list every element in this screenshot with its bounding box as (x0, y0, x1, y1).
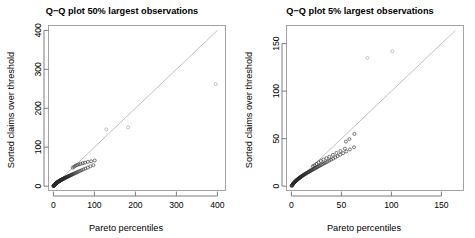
data-point (344, 140, 347, 143)
data-point (334, 151, 337, 154)
data-point (105, 128, 108, 131)
panel-right-ytick-0: 0 (271, 184, 281, 189)
panel-left-ytick-1: 100 (33, 140, 43, 155)
data-point (390, 50, 393, 53)
panel-left-ytick-4: 400 (33, 23, 43, 38)
panel-right-xtick-3: 150 (434, 200, 449, 210)
panel-right-xlabel: Pareto percentiles (326, 223, 400, 233)
panel-left-ytick-0: 0 (33, 184, 43, 189)
data-point (338, 150, 341, 153)
data-point (214, 83, 217, 86)
panel-right-ytick-1: 50 (271, 134, 281, 144)
data-point (324, 157, 327, 160)
panel-right-reference-line (291, 30, 455, 186)
panel-left-xtick-4: 400 (210, 200, 225, 210)
data-point (86, 160, 89, 163)
data-point (352, 146, 355, 149)
data-point (343, 147, 346, 150)
panel-left-title: Q−Q plot 50% largest observations (46, 6, 198, 16)
panel-left-ylabel: Sorted claims over threshold (6, 52, 16, 168)
data-point (79, 162, 82, 165)
data-point (341, 152, 344, 155)
panel-left-xlabel: Pareto percentiles (89, 223, 163, 233)
data-point (92, 164, 95, 167)
panel-right-plot-area: 0 50 100 150 0 50 100 150 (271, 26, 464, 211)
data-point (89, 165, 92, 168)
panel-right-xtick-0: 0 (289, 200, 294, 210)
panel-left-xtick-0: 0 (51, 200, 56, 210)
panel-right-xtick-1: 50 (336, 200, 346, 210)
data-point (348, 148, 351, 151)
panel-left: Q−Q plot 50% largest observations Pareto… (0, 0, 238, 238)
panel-left-xtick-2: 200 (128, 200, 143, 210)
panel-right-ytick-2: 100 (271, 84, 281, 99)
panel-left-plot-area: 0 100 200 300 400 0 100 (33, 23, 226, 210)
qq-plot-figure: Q−Q plot 50% largest observations Pareto… (0, 0, 475, 238)
panel-right-ylabel: Sorted claims over threshold (244, 52, 254, 168)
panel-right-y-axis: 0 50 100 150 (271, 36, 287, 188)
data-point (327, 155, 330, 158)
panel-left-canvas: Q−Q plot 50% largest observations Pareto… (0, 0, 238, 238)
data-point (321, 158, 324, 161)
panel-left-ytick-3: 300 (33, 62, 43, 77)
data-point (347, 138, 350, 141)
data-point (90, 160, 93, 163)
panel-left-y-axis: 0 100 200 300 400 (33, 23, 49, 189)
panel-right-canvas: Q−Q plot 5% largest observations Pareto … (238, 0, 475, 238)
panel-right: Q−Q plot 5% largest observations Pareto … (238, 0, 475, 238)
panel-left-xtick-3: 300 (169, 200, 184, 210)
data-point (93, 159, 96, 162)
panel-right-xtick-2: 100 (384, 200, 399, 210)
panel-right-ytick-3: 150 (271, 36, 281, 51)
panel-right-title: Q−Q plot 5% largest observations (286, 6, 433, 16)
data-point (338, 153, 341, 156)
data-point (331, 153, 334, 156)
panel-right-data-points (290, 50, 394, 188)
panel-right-x-axis: 0 50 100 150 (289, 192, 449, 211)
data-point (365, 56, 368, 59)
panel-left-xtick-1: 100 (87, 200, 102, 210)
data-point (352, 132, 355, 135)
data-point (127, 126, 130, 129)
panel-left-x-axis: 0 100 200 300 400 (51, 192, 225, 211)
panel-left-data-points (52, 83, 217, 188)
panel-left-ytick-2: 200 (33, 101, 43, 116)
